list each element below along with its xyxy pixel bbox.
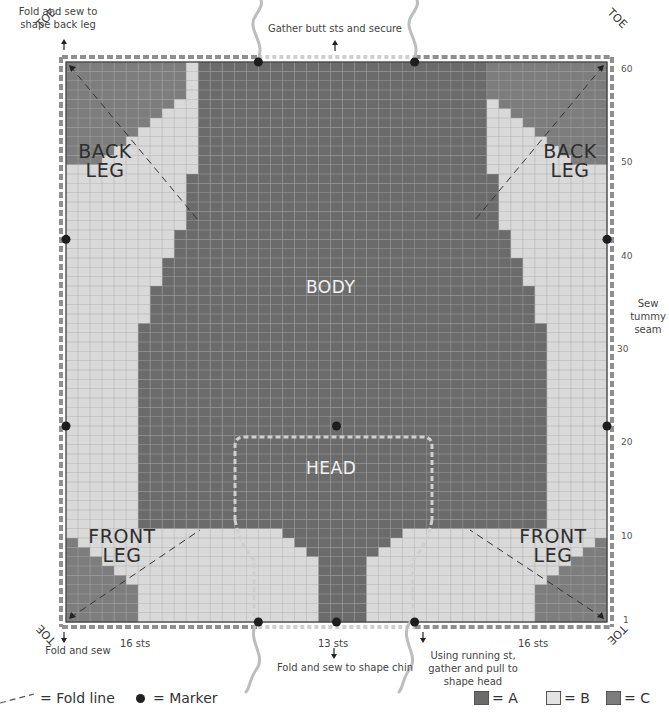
sts-count-right: 16 sts bbox=[508, 637, 558, 650]
label-front-leg-right: FRONT LEG bbox=[513, 527, 593, 565]
legend-color-b: = B bbox=[546, 690, 590, 706]
note-shape-head: Using running st, gather and pull to sha… bbox=[418, 649, 528, 688]
legend-b-label: = B bbox=[564, 690, 590, 706]
sts-count-left: 16 sts bbox=[110, 637, 160, 650]
label-line: LEG bbox=[513, 546, 593, 565]
row-tick-60: 60 bbox=[621, 64, 632, 74]
label-front-leg-left: FRONT LEG bbox=[82, 527, 162, 565]
row-tick-40: 40 bbox=[621, 251, 632, 261]
legend-marker-label: = Marker bbox=[153, 690, 218, 706]
note-shape-chin: Fold and sew to shape chin bbox=[270, 661, 420, 674]
note-sew-tummy-seam: Sew tummy seam bbox=[628, 297, 668, 336]
legend-fold-line-label: = Fold line bbox=[40, 690, 115, 706]
row-tick-20: 20 bbox=[621, 437, 632, 447]
note-fold-back-leg: Fold and sew to shape back leg bbox=[8, 5, 108, 31]
legend-c-label: = C bbox=[624, 690, 650, 706]
marker-icon bbox=[136, 694, 145, 703]
swatch-a-icon bbox=[474, 691, 489, 705]
legend-color-a: = A bbox=[474, 690, 518, 706]
row-tick-50: 50 bbox=[621, 157, 632, 167]
row-tick-10: 10 bbox=[621, 531, 632, 541]
label-back-leg-left: BACK LEG bbox=[70, 142, 140, 180]
knitting-chart bbox=[0, 0, 669, 721]
note-gather-butt: Gather butt sts and secure bbox=[250, 22, 420, 35]
row-tick-1: 1 bbox=[623, 615, 629, 625]
row-tick-30: 30 bbox=[617, 344, 628, 354]
swatch-b-icon bbox=[546, 691, 561, 705]
label-body: BODY bbox=[306, 277, 355, 297]
legend-fold-line: = Fold line bbox=[0, 690, 115, 706]
label-line: LEG bbox=[70, 161, 140, 180]
sts-count-center: 13 sts bbox=[308, 637, 358, 650]
legend-color-c: = C bbox=[606, 690, 650, 706]
fold-line-icon bbox=[0, 691, 40, 705]
label-head: HEAD bbox=[306, 458, 356, 478]
label-back-leg-right: BACK LEG bbox=[535, 142, 605, 180]
swatch-c-icon bbox=[606, 691, 621, 705]
legend-marker: = Marker bbox=[136, 690, 218, 706]
legend-a-label: = A bbox=[492, 690, 518, 706]
label-line: LEG bbox=[82, 546, 162, 565]
label-line: LEG bbox=[535, 161, 605, 180]
